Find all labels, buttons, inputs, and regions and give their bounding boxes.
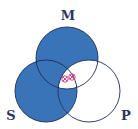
label-p: P <box>121 108 131 123</box>
label-s: S <box>6 108 15 123</box>
label-m: M <box>61 8 75 23</box>
venn-diagram: M S P <box>0 0 138 129</box>
